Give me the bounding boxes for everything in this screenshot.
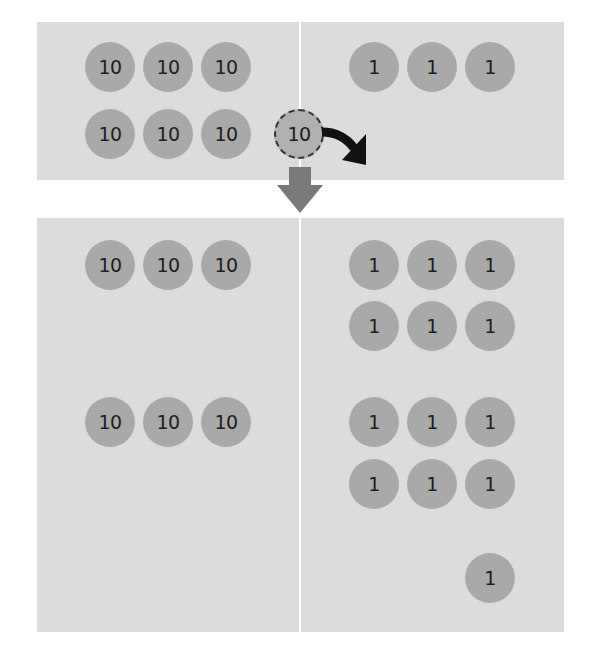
moving-ten-chip: 10 <box>274 109 324 159</box>
ten-chip: 10 <box>201 397 251 447</box>
one-chip: 1 <box>465 301 515 351</box>
ten-chip: 10 <box>201 42 251 92</box>
one-chip: 1 <box>349 397 399 447</box>
one-chip: 1 <box>407 397 457 447</box>
ten-chip: 10 <box>143 397 193 447</box>
one-chip: 1 <box>407 301 457 351</box>
ten-chip: 10 <box>143 240 193 290</box>
one-chip: 1 <box>349 240 399 290</box>
ten-chip: 10 <box>85 42 135 92</box>
ten-chip: 10 <box>201 240 251 290</box>
ten-chip: 10 <box>85 109 135 159</box>
one-chip: 1 <box>465 240 515 290</box>
one-chip: 1 <box>349 42 399 92</box>
one-chip: 1 <box>407 42 457 92</box>
down-arrow-icon <box>275 163 335 223</box>
ten-chip: 10 <box>143 42 193 92</box>
ten-chip: 10 <box>85 240 135 290</box>
ten-chip: 10 <box>143 109 193 159</box>
one-chip: 1 <box>465 553 515 603</box>
one-chip: 1 <box>465 459 515 509</box>
one-chip: 1 <box>349 301 399 351</box>
ten-chip: 10 <box>201 109 251 159</box>
one-chip: 1 <box>465 42 515 92</box>
one-chip: 1 <box>407 240 457 290</box>
one-chip: 1 <box>465 397 515 447</box>
ten-chip: 10 <box>85 397 135 447</box>
one-chip: 1 <box>407 459 457 509</box>
one-chip: 1 <box>349 459 399 509</box>
